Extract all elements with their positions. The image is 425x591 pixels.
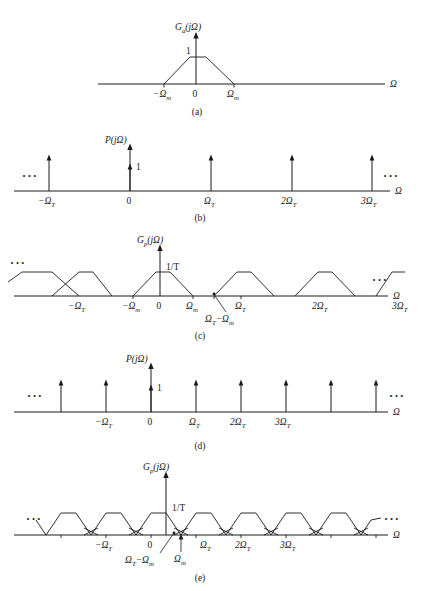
- panel-e-omega-label: Ω: [393, 530, 400, 540]
- panel-e-ellipsis-right: ···: [384, 512, 400, 526]
- panel-a-title: Ga(jΩ): [175, 22, 201, 34]
- panel-a-spectrum-curve: [164, 57, 234, 84]
- panel-e-ticklabel-3: 2ΩT: [235, 540, 252, 552]
- panel-c-caption: (c): [195, 331, 206, 342]
- panel-e-title: Gp(jΩ): [143, 462, 169, 474]
- panel-b-vertical-arrow: [127, 144, 132, 151]
- panel-c-annotation-point: [213, 293, 216, 296]
- panel-e-ticklabel-4: 3ΩT: [279, 540, 297, 552]
- panel-d-vertical-arrow: [148, 363, 153, 370]
- panel-a-vertical-arrow: [193, 32, 198, 39]
- panel-c-ellipsis-left: ···: [10, 256, 26, 270]
- panel-c-ticklabel-2: 0: [157, 301, 162, 311]
- panel-e-ellipsis-left: ···: [26, 512, 42, 526]
- panel-e-annotation-left-label: ΩT−Ωm: [125, 555, 154, 567]
- panel-c-ticklabel-5: 2ΩT: [312, 301, 329, 313]
- panel-d-amplitude-label: 1: [157, 383, 162, 393]
- panel-b: P(jΩ) Ω 1 ··· ··· −ΩT 0 ΩT: [14, 135, 402, 224]
- panel-e-spectrum-replicas-aliased: [36, 513, 381, 535]
- panel-e: Gp(jΩ) Ω 1/T: [14, 462, 400, 584]
- panel-b-omega-label: Ω: [395, 186, 402, 196]
- panel-b-ellipsis-left: ···: [22, 169, 38, 183]
- panel-b-amplitude-label: 1: [136, 162, 141, 172]
- panel-d-title: P(jΩ): [125, 354, 148, 365]
- panel-c-ticklabel-3: Ωm: [186, 301, 198, 313]
- sampling-spectra-figure: Ga(jΩ) Ω 1 −Ωm 0 Ωm (a) P(jΩ) Ω: [0, 0, 425, 591]
- panel-a-ticklabel-0: −Ωm: [153, 89, 171, 101]
- panel-e-caption: (e): [195, 573, 206, 584]
- panel-a-caption: (a): [192, 107, 203, 118]
- panel-b-ticklabel-0: −ΩT: [38, 196, 56, 208]
- panel-c-ticklabel-4: ΩT: [235, 301, 247, 313]
- panel-b-ticklabel-1: 0: [127, 196, 132, 206]
- panel-c-title: Gp(jΩ): [137, 235, 163, 247]
- panel-a-omega-label: Ω: [390, 79, 397, 89]
- panel-e-annotation-left-point: [173, 532, 176, 535]
- panel-d-ticklabel-4: 3ΩT: [274, 417, 292, 429]
- panel-c-omega-label: Ω: [393, 291, 400, 301]
- panel-d-caption: (d): [194, 441, 205, 452]
- panel-c-annotation-label: ΩT−Ωm: [205, 314, 234, 326]
- panel-e-ticklabel-1: 0: [148, 540, 153, 550]
- panel-b-ticklabel-4: 3ΩT: [360, 196, 378, 208]
- panel-e-ticklabel-2: ΩT: [200, 540, 212, 552]
- panel-d-omega-label: Ω: [393, 407, 400, 417]
- panel-c-amplitude-label: 1/T: [166, 262, 179, 272]
- panel-a: Ga(jΩ) Ω 1 −Ωm 0 Ωm (a): [98, 22, 397, 118]
- panel-c-vertical-arrow: [157, 245, 162, 252]
- panel-b-ticklabel-3: 2ΩT: [281, 196, 298, 208]
- panel-e-annotation-right-arrow: [179, 534, 184, 540]
- panel-e-amplitude-label: 1/T: [172, 503, 185, 513]
- panel-d: P(jΩ) Ω 1 ··· ···: [14, 354, 405, 452]
- panel-a-ticklabel-2: Ωm: [227, 89, 239, 101]
- panel-c-ticklabel-6: 3ΩT: [391, 301, 409, 313]
- panel-a-ticklabel-1: 0: [193, 89, 198, 99]
- panel-b-ticklabel-2: ΩT: [204, 196, 216, 208]
- panel-a-amplitude-label: 1: [186, 46, 191, 56]
- panel-c-ticklabel-0: −ΩT: [68, 301, 86, 313]
- panel-d-ticklabel-2: ΩT: [189, 417, 201, 429]
- panel-d-ticklabel-1: 0: [148, 417, 153, 427]
- panel-c-annotation-leader: [214, 295, 226, 313]
- panel-c: Gp(jΩ) Ω 1/T ··· ··· −ΩT: [8, 235, 409, 342]
- panel-c-ticklabel-1: −Ωm: [122, 301, 140, 313]
- panel-c-spectrum-replicas: [8, 272, 405, 296]
- panel-d-impulse-train: [59, 380, 379, 413]
- panel-b-title: P(jΩ): [104, 135, 127, 146]
- panel-d-ticklabel-3: 2ΩT: [230, 417, 247, 429]
- panel-d-ticklabel-0: −ΩT: [95, 417, 113, 429]
- panel-b-ellipsis-right: ···: [383, 169, 399, 183]
- panel-d-ellipsis-left: ···: [27, 389, 43, 403]
- panel-e-aliasing-crossings: [84, 528, 368, 535]
- panel-c-ellipsis-right: ···: [372, 273, 388, 287]
- panel-b-impulse-train: [47, 155, 375, 192]
- panel-e-annotation-right-label: Ωm: [174, 554, 186, 566]
- panel-b-caption: (b): [194, 213, 205, 224]
- panel-d-ellipsis-right: ···: [389, 389, 405, 403]
- panel-e-ticklabel-0: −ΩT: [95, 540, 113, 552]
- panel-e-vertical-arrow: [163, 472, 168, 479]
- panel-e-annotation-left-leader: [160, 533, 174, 553]
